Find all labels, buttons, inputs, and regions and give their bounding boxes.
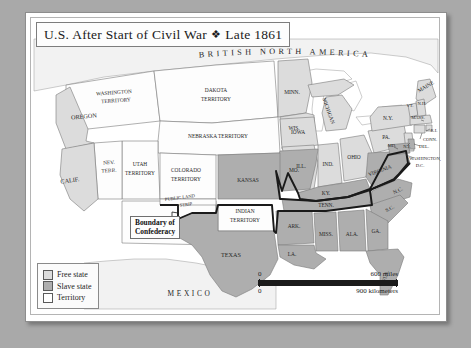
label-colorado-territory-line2: TERRITORY [171,176,201,182]
confederacy-boundary-callout: Boundary of Confederacy [130,216,180,239]
label-ohio: OHIO [347,154,361,160]
label-indian-territory-line1: INDIAN [235,208,254,214]
leader-line-conn [420,133,422,139]
legend-swatch-free-state [43,270,53,280]
label-washington-dc-line1: WASHINGTON, [409,156,441,162]
legend-item-free-state: Free state [43,270,91,280]
label-texas: TEXAS [221,251,241,258]
legend-swatch-territory [43,293,53,303]
map-title-text: U.S. After Start of Civil War [44,27,207,42]
scale-tick-start [259,279,260,287]
map-title-date: Late 1861 [225,27,282,42]
label-new-hampshire: N.H. [418,101,427,106]
label-mississippi: MISS. [319,231,333,237]
label-pennsylvania: PA. [382,134,390,140]
label-iowa: IOWA [291,129,305,135]
legend-item-slave-state: Slave state [43,281,91,291]
label-dakota-territory-line1: DAKOTA [205,87,227,93]
map-scale-bar: 0 600 miles 0 900 kilometers [258,270,398,296]
label-utah-territory-line2: TERRITORY [125,170,155,176]
label-indian-territory-line2: TERRITORY [230,217,260,223]
label-indiana: IND. [323,161,334,167]
label-mexico: MEXICO [168,289,213,298]
label-rhode-island: R.I. [431,128,438,133]
label-new-york: N.Y. [383,115,393,121]
map-panel: BRITISH NORTH AMERICA MEXICO WASHINGTON … [25,12,447,322]
legend-label-free-state: Free state [57,270,88,279]
callout-line-2: Confederacy [135,228,175,237]
label-nebraska-territory: NEBRASKA TERRITORY [188,133,248,139]
label-dakota-territory-line2: TERRITORY [201,96,231,102]
scale-km-label: 900 kilometers [356,287,398,295]
label-delaware: DEL. [419,144,429,149]
label-nevada-territory-line2: TERR. [101,167,116,174]
label-nevada-territory-line1: NEV. [103,159,115,166]
label-washington-dc-line2: D.C. [416,163,425,168]
label-minnesota: MINN. [284,89,300,95]
map-title-plate: U.S. After Start of Civil War ❖ Late 186… [36,22,290,47]
scale-km-zero: 0 [258,287,262,295]
label-tennessee: TENN. [318,202,334,208]
scale-bar-graphic [258,280,398,286]
title-diamond-icon: ❖ [211,28,221,40]
label-massachusetts: MASS. [411,115,425,120]
scale-tick-end [396,279,397,287]
label-alabama: ALA. [346,231,358,237]
label-kentucky: KY. [322,190,330,196]
scale-row-miles: 0 600 miles [258,270,398,279]
label-kansas: KANSAS [237,177,259,183]
scale-miles-label: 600 miles [371,270,398,278]
label-arkansas: ARK. [288,223,301,229]
label-georgia: GA. [371,228,380,234]
label-illinois: ILL. [296,163,306,169]
kansas-shape [218,153,280,199]
scale-row-kilometers: 0 900 kilometers [258,287,398,296]
legend-label-slave-state: Slave state [57,282,91,291]
label-utah-territory-line1: UTAH [133,161,148,167]
legend-swatch-slave-state [43,281,53,291]
screenshot-root: BRITISH NORTH AMERICA MEXICO WASHINGTON … [0,0,471,348]
label-vermont: VT. [407,103,414,108]
connecticut-shape [414,125,425,133]
legend-label-territory: Territory [57,293,85,302]
scale-miles-zero: 0 [258,270,262,278]
label-colorado-territory-line1: COLORADO [171,167,201,173]
legend-item-territory: Territory [43,293,91,303]
map-legend: Free state Slave state Territory [37,263,99,309]
label-new-jersey: N.J. [403,144,410,149]
minnesota-shape [278,59,312,117]
label-connecticut: CONN. [423,137,437,142]
label-louisiana: LA. [288,251,297,257]
